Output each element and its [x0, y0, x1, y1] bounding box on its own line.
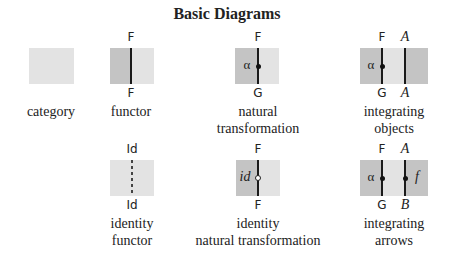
ia-bottom-left-label: G — [372, 198, 392, 212]
idf-bottom-label: Id — [122, 198, 142, 212]
idn-top-label: F — [248, 142, 268, 156]
source-category-region — [110, 48, 131, 84]
io-top-left-label: F — [372, 30, 392, 44]
ia-left-node-label: α — [361, 169, 381, 185]
io-wire-a — [404, 48, 406, 84]
target-category-region — [131, 48, 154, 84]
functor-top-label: F — [121, 30, 141, 44]
caption-ia-line1: integrating — [319, 215, 454, 232]
region-right — [405, 48, 428, 84]
ia-top-right-label: A — [395, 141, 415, 157]
category-region — [29, 48, 74, 84]
nat-top-label: F — [248, 30, 268, 44]
idf-top-label: Id — [122, 142, 142, 156]
caption-nat-line2: transformation — [183, 120, 333, 137]
ia-top-left-label: F — [372, 142, 392, 156]
functor-wire — [130, 48, 132, 84]
idn-box: id — [236, 160, 280, 196]
functor-bottom-label: F — [121, 86, 141, 100]
io-node-label: α — [361, 57, 381, 73]
idf-box — [110, 160, 154, 196]
caption-io-line2: objects — [319, 120, 454, 137]
identity-wire-dashed — [131, 160, 133, 196]
hollow-node-icon — [255, 175, 261, 181]
caption-nat-line1: natural — [183, 103, 333, 120]
caption-ia-line2: arrows — [319, 232, 454, 249]
io-top-right-label: A — [395, 29, 415, 45]
caption-idn-line1: identity — [183, 215, 333, 232]
io-bottom-left-label: G — [372, 86, 392, 100]
idn-node-label: id — [235, 169, 255, 185]
io-box: α — [360, 48, 428, 84]
target-category-region — [258, 160, 280, 196]
nat-box: α — [235, 48, 279, 84]
ia-box: α f — [360, 160, 428, 196]
target-category-region — [258, 48, 279, 84]
functor-box — [110, 48, 154, 84]
ia-right-node-label: f — [407, 169, 427, 185]
region-middle — [382, 160, 405, 196]
region-middle — [382, 48, 405, 84]
idn-bottom-label: F — [248, 198, 268, 212]
ia-bottom-right-label: B — [395, 197, 415, 213]
page-title: Basic Diagrams — [0, 5, 454, 23]
nat-node-label: α — [237, 57, 257, 73]
nat-bottom-label: G — [248, 86, 268, 100]
caption-io-line1: integrating — [319, 103, 454, 120]
io-bottom-right-label: A — [395, 85, 415, 101]
